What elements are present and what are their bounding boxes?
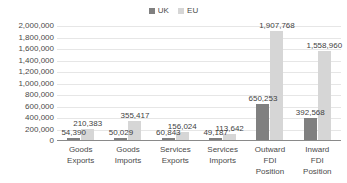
- bar-group: 392,5681,558,960: [294, 26, 341, 141]
- bar-eu[interactable]: [270, 31, 283, 141]
- bar-value-label: 50,029: [109, 129, 133, 137]
- x-axis-category-label: ServicesExports: [152, 144, 199, 183]
- x-axis-category-label: ServicesImports: [199, 144, 246, 183]
- y-axis: 0200,000400,000600,000800,0001,000,0001,…: [0, 26, 54, 141]
- legend-swatch-uk-icon: [149, 8, 155, 14]
- bar-pair: [104, 26, 151, 141]
- y-axis-tick-label: 1,600,000: [1, 45, 54, 53]
- x-axis-category-label: OutwardFDIPosition: [246, 144, 293, 183]
- y-axis-tick-label: 400,000: [1, 114, 54, 122]
- x-axis-category-line: Goods: [57, 144, 104, 155]
- y-axis-tick-label: 1,800,000: [1, 34, 54, 42]
- bar-uk[interactable]: [304, 118, 317, 141]
- x-axis-category-line: Services: [152, 144, 199, 155]
- bar-value-label: 54,390: [61, 129, 85, 137]
- x-axis-category-line: Exports: [152, 155, 199, 166]
- bar-group: 60,843156,024: [152, 26, 199, 141]
- bar-value-label: 392,568: [296, 109, 325, 117]
- x-axis-category-line: Outward: [246, 144, 293, 155]
- x-axis-category-line: Imports: [199, 155, 246, 166]
- x-axis-category-line: Goods: [104, 144, 151, 155]
- legend-item-uk[interactable]: UK: [149, 7, 169, 15]
- x-axis-category-line: FDI: [294, 155, 341, 166]
- bar-value-label: 156,024: [168, 123, 197, 131]
- bar-value-label: 355,417: [121, 112, 150, 120]
- bar-group: 650,2531,907,768: [246, 26, 293, 141]
- x-axis-line: [57, 140, 341, 141]
- bar-value-label: 113,642: [215, 125, 243, 133]
- bar-chart: UK EU 0200,000400,000600,000800,0001,000…: [0, 0, 347, 183]
- bar-pair: [246, 26, 293, 141]
- legend-label-eu: EU: [187, 7, 198, 15]
- bar-value-label: 650,253: [249, 95, 278, 103]
- y-axis-tick-label: 200,000: [1, 126, 54, 134]
- bar-value-label: 1,558,960: [307, 42, 343, 50]
- x-axis-category-line: Services: [199, 144, 246, 155]
- legend-label-uk: UK: [158, 7, 169, 15]
- x-axis-category-label: GoodsImports: [104, 144, 151, 183]
- x-axis-category-line: Inward: [294, 144, 341, 155]
- bar-group: 49,187113,642: [199, 26, 246, 141]
- chart-legend: UK EU: [0, 7, 347, 15]
- y-axis-tick-label: 2,000,000: [1, 22, 54, 30]
- y-axis-tick-label: 1,200,000: [1, 68, 54, 76]
- bar-uk[interactable]: [256, 104, 269, 141]
- bar-value-label: 210,383: [73, 120, 102, 128]
- x-axis-category-label: InwardFDIPosition: [294, 144, 341, 183]
- y-axis-tick-label: 800,000: [1, 91, 54, 99]
- bar-value-label: 1,907,768: [259, 22, 295, 30]
- y-axis-tick-label: 1,000,000: [1, 80, 54, 88]
- x-axis-category-line: FDI: [246, 155, 293, 166]
- y-axis-tick-label: 0: [1, 137, 54, 145]
- bar-group: 54,390210,383: [57, 26, 104, 141]
- bar-groups: 54,390210,38350,029355,41760,843156,0244…: [57, 26, 341, 141]
- x-axis-category-line: Position: [294, 166, 341, 177]
- bar-group: 50,029355,417: [104, 26, 151, 141]
- x-axis-category-line: Imports: [104, 155, 151, 166]
- bar-eu[interactable]: [318, 51, 331, 141]
- x-axis-category-label: GoodsExports: [57, 144, 104, 183]
- x-axis-labels: GoodsExportsGoodsImportsServicesExportsS…: [57, 144, 341, 183]
- y-axis-tick-label: 1,400,000: [1, 57, 54, 65]
- x-axis-category-line: Exports: [57, 155, 104, 166]
- legend-swatch-eu-icon: [178, 8, 184, 14]
- x-axis-category-line: Position: [246, 166, 293, 177]
- legend-item-eu[interactable]: EU: [178, 7, 198, 15]
- y-axis-tick-label: 600,000: [1, 103, 54, 111]
